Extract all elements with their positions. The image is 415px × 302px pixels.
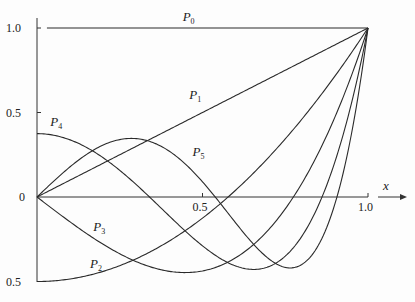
legendre-polynomials-chart: x 1.00.500.50.51.0 P0P1P2P3P4P5 <box>0 0 415 302</box>
x-axis-arrowhead-icon <box>400 194 407 200</box>
y-tick-label: 1.0 <box>6 21 21 35</box>
curve-label-p3: P3 <box>92 219 105 236</box>
curve-label-p4: P4 <box>49 114 62 131</box>
curve-label-p5: P5 <box>192 144 205 161</box>
curve-p1 <box>37 28 368 197</box>
x-axis-label: x <box>382 178 389 193</box>
axes: x <box>37 18 407 282</box>
y-tick-label: 0 <box>19 190 25 204</box>
y-tick-label: 0.5 <box>6 275 21 289</box>
curve-label-p0: P0 <box>182 9 195 26</box>
curve-p3 <box>37 28 368 273</box>
x-tick-label: 0.5 <box>193 200 208 214</box>
curve-label-p2: P2 <box>89 256 102 273</box>
curve-label-p1: P1 <box>188 87 201 104</box>
y-tick-label: 0.5 <box>6 106 21 120</box>
chart-container: x 1.00.500.50.51.0 P0P1P2P3P4P5 <box>0 0 415 302</box>
x-tick-label: 1.0 <box>358 200 373 214</box>
